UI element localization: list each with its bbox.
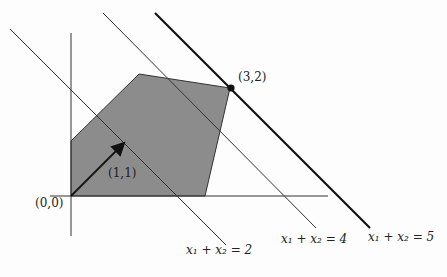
direction-label: (1,1) <box>108 166 136 180</box>
line4-label: x₁ + x₂ = 4 <box>281 232 347 246</box>
line5-label: x₁ + x₂ = 5 <box>368 230 434 244</box>
line2-label: x₁ + x₂ = 2 <box>186 243 252 257</box>
feasible-region <box>71 74 230 196</box>
origin-label: (0,0) <box>35 196 63 210</box>
optimum-point <box>227 84 234 91</box>
optimum-label: (3,2) <box>238 70 266 84</box>
